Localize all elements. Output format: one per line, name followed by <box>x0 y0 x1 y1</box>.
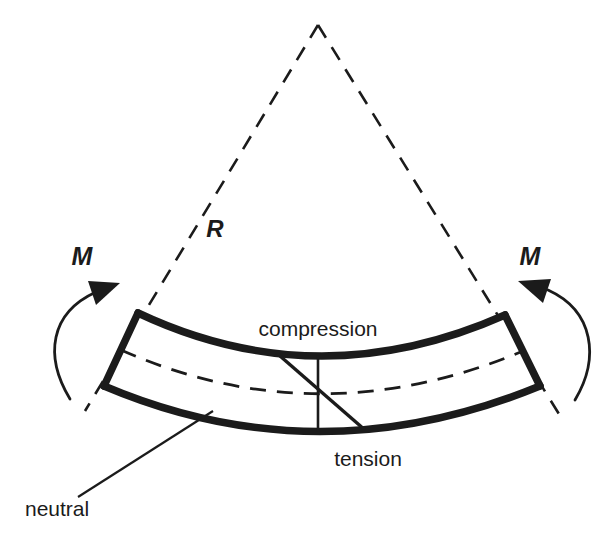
moment-arrowhead-left <box>88 281 120 305</box>
neutral-leader-line <box>78 411 213 497</box>
tension-label: tension <box>334 447 402 470</box>
diagram-canvas: M M R compression tension neutral <box>0 0 606 538</box>
moment-arrowhead-right <box>518 279 551 303</box>
neutral-label: neutral <box>25 497 89 520</box>
moment-label-right: M <box>520 242 542 270</box>
moment-label-left: M <box>72 242 94 270</box>
moment-arc-left <box>55 292 96 399</box>
beam-bending-diagram: M M R compression tension neutral <box>0 0 606 538</box>
radius-label: R <box>206 215 224 242</box>
compression-label: compression <box>258 317 377 340</box>
moment-arc-right <box>548 290 590 400</box>
